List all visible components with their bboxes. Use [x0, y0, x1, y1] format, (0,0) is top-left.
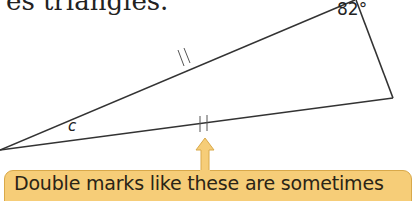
callout-text: Double marks like these are sometimes	[14, 172, 384, 194]
